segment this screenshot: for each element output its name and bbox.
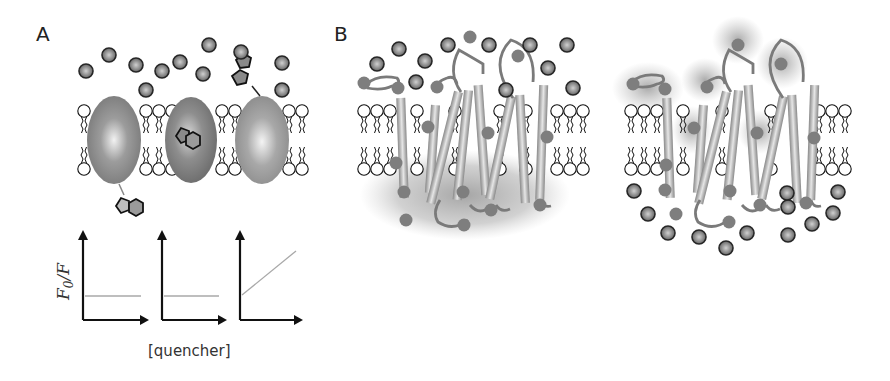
quencher-spheres-a — [79, 38, 289, 97]
protein-ellipsoid-3 — [235, 96, 289, 184]
fluorophore-cytoplasmic-icon — [116, 198, 143, 216]
assembly-right — [612, 16, 851, 255]
plot-1 — [78, 230, 149, 325]
figure-canvas: A — [0, 0, 890, 381]
panel-a-label: A — [36, 22, 50, 46]
plot-3 — [235, 230, 303, 325]
panel-a: A — [36, 22, 308, 360]
plot-2 — [157, 230, 227, 325]
x-axis-label: [quencher] — [148, 342, 231, 360]
protein-ellipsoid-1 — [87, 96, 141, 184]
panel-b: B — [334, 16, 851, 255]
assembly-left — [358, 31, 590, 241]
panel-b-label: B — [334, 22, 348, 46]
stern-volmer-plots — [78, 230, 303, 325]
y-axis-label: F0/F — [53, 262, 76, 301]
